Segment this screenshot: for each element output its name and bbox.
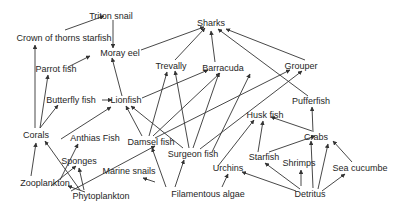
arrow-icon [333,141,352,162]
arrow-icon [175,28,205,60]
arrow-icon [226,29,305,60]
arrow-icon [211,31,215,62]
node-marinesnails: Marine snails [102,166,155,177]
arrow-icon [242,172,296,191]
node-parrot: Parrot fish [35,64,76,75]
arrow-icon [126,106,142,136]
node-surgeon: Surgeon fish [168,149,219,160]
arrow-icon [153,73,220,136]
node-phytoplankton: Phytoplankton [72,191,129,202]
arrow-icon [31,143,36,176]
node-damsel: Damsel fish [127,137,174,148]
arrow-icon [155,70,290,138]
node-crabs: Crabs [304,132,328,143]
arrow-icon [175,160,184,187]
node-seacucumber: Sea cucumbe [332,163,387,174]
food-web-diagram: Triton snailCrown of thorns starfishShar… [0,0,394,215]
node-filamentous: Filamentous algae [171,189,245,200]
arrow-icon [212,74,250,152]
node-zooplankton: Zooplankton [20,178,70,189]
arrow-icon [149,72,167,136]
arrow-icon [258,121,263,152]
arrow-icon [318,144,328,189]
arrow-icon [112,58,122,96]
node-trevally: Trevally [155,61,186,72]
node-sponges: Sponges [61,156,97,167]
node-urchins: Urchins [213,163,244,174]
node-triton: Triton snail [89,11,133,22]
node-crown: Crown of thorns starfish [16,33,111,44]
node-barracuda: Barracuda [202,63,244,74]
node-moray: Moray eel [100,48,140,59]
node-butterfly: Butterfly fish [46,95,96,106]
node-detritus: Detritus [294,189,325,200]
arrow-icon [175,71,189,148]
node-shrimps: Shrimps [282,158,315,169]
arrow-icon [312,107,313,132]
arrow-icon [143,178,155,182]
node-pufferfish: Pufferfish [292,96,330,107]
node-corals: Corals [23,130,49,141]
arrow-icon [193,73,219,148]
node-anthias: Anthias Fish [70,133,120,144]
node-starfish: Starfish [249,152,280,163]
arrow-icon [222,174,228,187]
node-huskfish: Husk fish [246,110,283,121]
node-lionfish: Lionfish [110,95,141,106]
node-grouper: Grouper [284,61,317,72]
node-sharks: Sharks [197,18,225,29]
